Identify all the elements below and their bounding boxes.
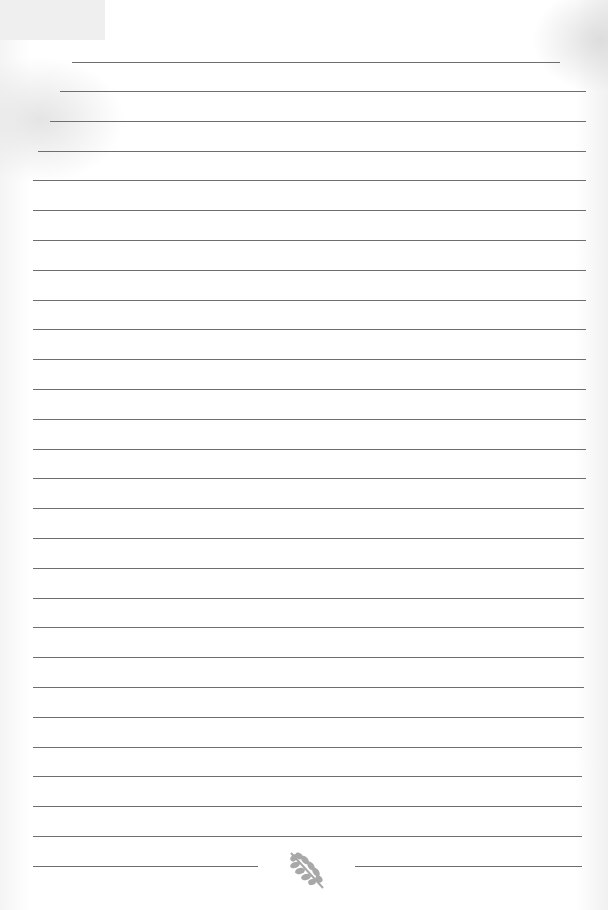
ruled-line — [33, 300, 586, 301]
ruled-line — [33, 478, 586, 479]
ruled-line — [33, 747, 582, 748]
left-rule — [33, 866, 258, 867]
ruled-line — [50, 121, 586, 122]
ruled-line — [33, 657, 584, 658]
ruled-line — [33, 389, 586, 390]
ruled-line — [33, 329, 586, 330]
ruled-line — [33, 568, 584, 569]
ruled-line — [33, 210, 586, 211]
ruled-line — [33, 449, 586, 450]
right-rule — [355, 866, 582, 867]
ruled-line — [33, 776, 582, 777]
ruled-line — [33, 627, 584, 628]
scan-corner-shadow — [0, 0, 105, 40]
ruled-line — [33, 836, 582, 837]
ruled-line — [38, 151, 586, 152]
ruled-line — [33, 359, 586, 360]
leaf-icon — [285, 848, 329, 892]
ruled-line — [33, 180, 586, 181]
ruled-line — [33, 270, 586, 271]
ruled-line — [33, 419, 586, 420]
ruled-line — [33, 717, 584, 718]
ruled-line — [33, 806, 582, 807]
ruled-line — [33, 240, 586, 241]
ruled-line — [33, 598, 584, 599]
ruled-line — [33, 687, 584, 688]
ruled-line — [33, 538, 584, 539]
ruled-line — [60, 91, 586, 92]
ruled-line — [72, 62, 560, 63]
lined-paper-sheet — [0, 0, 608, 910]
ruled-line — [33, 508, 584, 509]
